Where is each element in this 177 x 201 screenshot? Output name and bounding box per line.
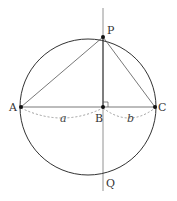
segment-pc xyxy=(103,37,155,107)
label-b: B xyxy=(95,112,103,125)
point-c xyxy=(153,105,157,109)
label-a: A xyxy=(8,101,18,114)
label-length-b: b xyxy=(127,112,134,125)
label-q: Q xyxy=(106,177,115,190)
segment-ap xyxy=(21,37,103,107)
label-c: C xyxy=(158,101,166,114)
point-b xyxy=(101,105,105,109)
label-p: P xyxy=(107,24,115,37)
geometry-diagram: P A B C Q a b xyxy=(0,0,177,201)
label-length-a: a xyxy=(60,112,67,125)
point-a xyxy=(19,105,23,109)
point-p xyxy=(101,35,105,39)
